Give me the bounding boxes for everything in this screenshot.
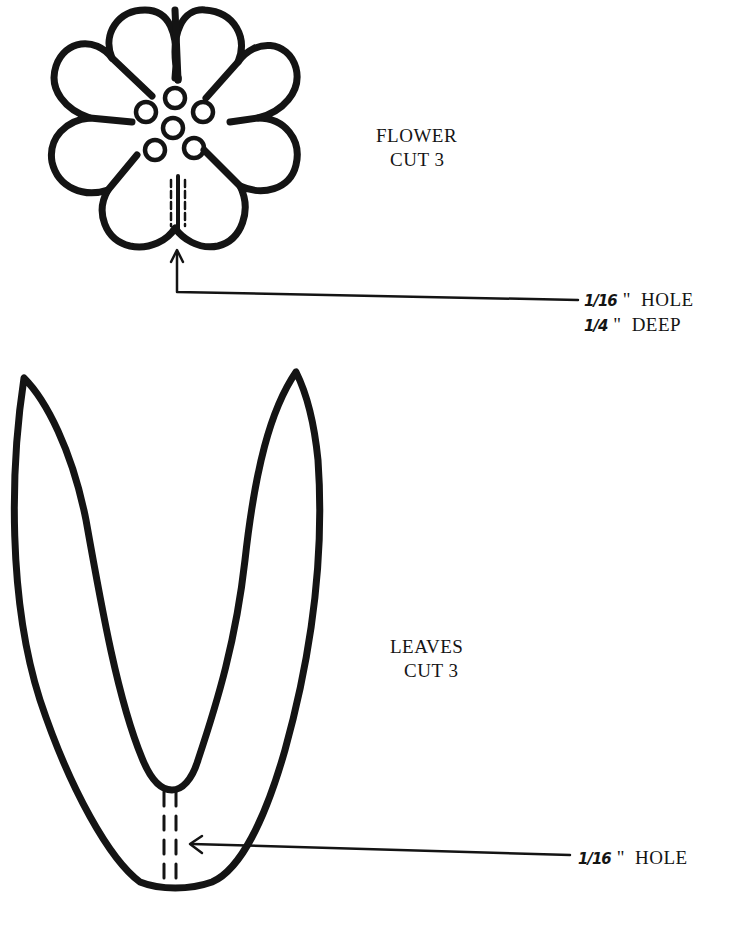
flower-label: FLOWER CUT 3 (376, 124, 457, 172)
leaves-shape (14, 372, 319, 888)
leaves-label: LEAVES CUT 3 (390, 635, 463, 683)
leaves-cut-count: CUT 3 (390, 659, 463, 683)
flower-hole-marker (171, 176, 185, 230)
flower-leader-line (171, 250, 578, 300)
flower-hole-text: HOLE (641, 288, 694, 312)
flower-depth-text: DEEP (632, 313, 682, 337)
leaves-hole-note: 1/16 " HOLE (578, 846, 688, 871)
flower-hole-fraction: 1/16 (584, 289, 617, 313)
flower-title: FLOWER (376, 124, 457, 148)
flower-hole-note: 1/16 " HOLE 1/4 " DEEP (584, 288, 694, 338)
leaves-hole-fraction: 1/16 (578, 847, 611, 871)
leaves-hole-text: HOLE (635, 846, 688, 870)
pattern-drawing (0, 0, 736, 950)
flower-cut-count: CUT 3 (376, 148, 457, 172)
inch-mark: " (613, 313, 621, 337)
flower-shape (51, 10, 297, 247)
flower-depth-fraction: 1/4 (584, 314, 607, 338)
leaves-title: LEAVES (390, 635, 463, 659)
inch-mark: " (617, 846, 625, 870)
leaves-hole-marker (164, 792, 176, 888)
inch-mark: " (623, 288, 631, 312)
